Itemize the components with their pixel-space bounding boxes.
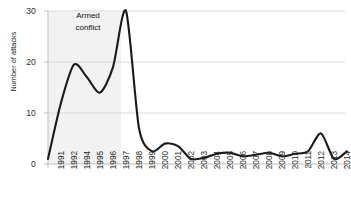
x-tick-label-2009: 2009 [278, 151, 287, 197]
x-tick-label-2013: 2013 [330, 151, 339, 197]
armed-conflict-shaded-band [48, 11, 121, 164]
x-tick-label-2004: 2004 [213, 151, 222, 197]
x-tick-label-1991: 1991 [57, 151, 66, 197]
x-tick-label-2008: 2008 [265, 151, 274, 197]
x-tick-label-2007: 2007 [252, 151, 261, 197]
x-tick-label-1996: 1996 [109, 151, 118, 197]
armed-conflict-annotation-line2: conflict [60, 22, 116, 34]
y-tick-label-20: 20 [10, 57, 36, 67]
x-tick-label-1995: 1995 [96, 151, 105, 197]
x-tick-label-1997: 1997 [122, 151, 131, 197]
y-tick-label-10: 10 [10, 108, 36, 118]
x-tick-label-2011: 2011 [304, 151, 313, 197]
x-tick-label-1992: 1992 [70, 151, 79, 197]
x-tick-label-2012: 2012 [317, 151, 326, 197]
x-tick-label-2002: 2002 [187, 151, 196, 197]
x-tick-label-1994: 1994 [83, 151, 92, 197]
armed-conflict-annotation: Armed conflict [60, 10, 116, 33]
x-tick-marks [48, 164, 345, 168]
x-tick-label-1999: 1999 [148, 151, 157, 197]
y-tick-label-0: 0 [10, 159, 36, 169]
y-tick-label-30: 30 [10, 6, 36, 16]
x-tick-label-2014: 2014 [343, 151, 351, 197]
armed-conflict-annotation-line1: Armed [60, 10, 116, 22]
x-tick-label-2001: 2001 [174, 151, 183, 197]
x-tick-label-2010: 2010 [291, 151, 300, 197]
x-tick-label-1998: 1998 [135, 151, 144, 197]
x-tick-label-2003: 2003 [200, 151, 209, 197]
x-tick-label-2006: 2006 [239, 151, 248, 197]
x-tick-label-2005: 2005 [226, 151, 235, 197]
attacks-line-chart: Number of attacks 30 20 10 0 Armed confl… [0, 0, 351, 209]
x-tick-label-2000: 2000 [161, 151, 170, 197]
